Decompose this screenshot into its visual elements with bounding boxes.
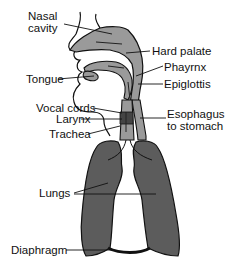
left-lung-shape [81, 141, 122, 256]
label-esophagus: Esophagus to stomach [167, 108, 225, 132]
label-diaphragm: Diaphragm [11, 244, 67, 256]
respiratory-illustration [0, 0, 229, 275]
right-lung-shape [133, 141, 179, 256]
back-of-head-outline [95, 14, 100, 28]
label-epiglottis: Epiglottis [164, 78, 211, 90]
label-trachea: Trachea [49, 128, 91, 140]
label-nasal-cavity: Nasal cavity [28, 10, 57, 34]
label-tongue: Tongue [26, 73, 64, 85]
label-larynx: Larynx [56, 113, 91, 125]
label-hard-palate: Hard palate [152, 45, 211, 57]
label-lungs: Lungs [39, 187, 70, 199]
diaphragm-shape [108, 248, 150, 253]
respiratory-system-diagram: Nasal cavity Hard palate Phayrnx Tongue … [0, 0, 229, 275]
label-pharynx: Phayrnx [164, 61, 206, 73]
